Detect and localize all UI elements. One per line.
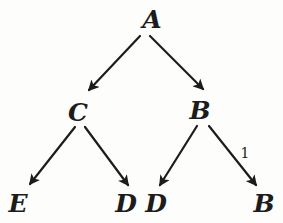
edges-group: 1 <box>30 36 256 185</box>
node-E: E <box>7 189 28 218</box>
edge-C-E <box>30 127 75 184</box>
edge-A-C <box>89 36 140 90</box>
node-D2: D <box>144 189 167 218</box>
node-B1: B <box>188 96 210 125</box>
tree-diagram: 1 ACBEDDB <box>0 0 283 223</box>
edge-label-B1-B2: 1 <box>241 145 250 161</box>
nodes-group: ACBEDDB <box>7 5 274 218</box>
tree-diagram-svg: 1 ACBEDDB <box>0 0 283 223</box>
edge-A-B1 <box>150 36 203 89</box>
node-B2: B <box>252 189 274 218</box>
edge-B1-D2 <box>160 126 197 185</box>
node-C: C <box>68 98 88 127</box>
node-D1: D <box>114 189 137 218</box>
node-A: A <box>140 5 161 34</box>
edge-C-D1 <box>85 127 128 185</box>
